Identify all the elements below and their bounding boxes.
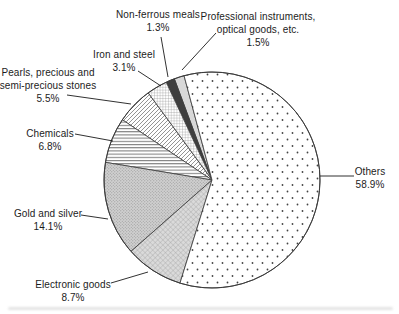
pie-chart-figure: Non-ferrous meals1.3%Professional instru… xyxy=(0,0,399,314)
pointer-line-gold-silver xyxy=(81,215,108,219)
slice-label-line: Non-ferrous meals xyxy=(116,8,200,21)
slice-label-gold-silver: Gold and silver14.1% xyxy=(14,207,82,233)
slice-label-iron-steel: Iron and steel3.1% xyxy=(93,48,155,74)
slice-label-line: 1.5% xyxy=(201,36,316,49)
pointer-line-electronic xyxy=(111,272,148,283)
slice-label-line: 14.1% xyxy=(14,220,82,233)
slice-label-line: Others xyxy=(355,165,386,178)
slice-label-line: 8.7% xyxy=(35,291,111,304)
slice-label-line: Pearls, precious and xyxy=(0,66,96,79)
slice-label-electronic: Electronic goods8.7% xyxy=(35,278,111,304)
slice-label-pearls: Pearls, precious andsemi-precious stones… xyxy=(0,66,96,105)
slice-label-non-ferrous: Non-ferrous meals1.3% xyxy=(116,8,200,34)
slice-label-line: 6.8% xyxy=(26,140,74,153)
slice-label-line: 5.5% xyxy=(0,92,96,105)
slice-label-line: Gold and silver xyxy=(14,207,82,220)
scan-artifact-smudge xyxy=(8,307,393,310)
slice-label-line: semi-precious stones xyxy=(0,79,96,92)
slice-label-professional: Professional instruments,optical goods, … xyxy=(201,10,316,49)
slice-label-line: Electronic goods xyxy=(35,278,111,291)
slice-label-line: Chemicals xyxy=(26,127,74,140)
slice-label-line: optical goods, etc. xyxy=(201,23,316,36)
pointer-line-non-ferrous xyxy=(161,37,168,77)
pie-chart-canvas xyxy=(0,0,399,314)
slice-label-line: Professional instruments, xyxy=(201,10,316,23)
pie-slices xyxy=(104,72,320,288)
slice-label-line: 1.3% xyxy=(116,21,200,34)
slice-label-line: Iron and steel xyxy=(93,48,155,61)
pointer-line-chemicals xyxy=(75,134,113,141)
slice-label-chemicals: Chemicals6.8% xyxy=(26,127,74,153)
slice-label-others: Others58.9% xyxy=(355,165,386,191)
slice-label-line: 3.1% xyxy=(93,61,155,74)
slice-label-line: 58.9% xyxy=(355,178,386,191)
